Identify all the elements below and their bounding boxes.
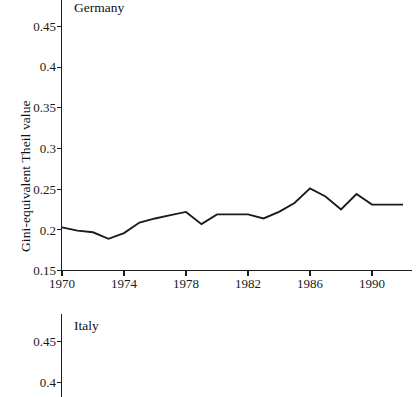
panel-italy: Italy value 0.45 0.4	[0, 300, 419, 397]
x-tick-label-1990: 1990	[349, 277, 395, 290]
y-tick-marks-germany	[57, 27, 62, 271]
panel-title-italy: Italy	[74, 319, 99, 333]
plot-area-italy	[0, 300, 419, 397]
y-tick-label-035: 0.35	[20, 101, 56, 114]
plot-area-germany	[0, 0, 419, 300]
x-tick-label-1974: 1974	[101, 277, 147, 290]
y-tick-label-italy-045: 0.45	[20, 335, 56, 348]
figure: Germany Gini-equivalent Theil value 0.45…	[0, 0, 419, 397]
y-tick-label-025: 0.25	[20, 183, 56, 196]
y-tick-label-04: 0.4	[20, 60, 56, 73]
y-tick-label-italy-04: 0.4	[20, 376, 56, 389]
panel-germany: Germany Gini-equivalent Theil value 0.45…	[0, 0, 419, 300]
panel-title-germany: Germany	[74, 1, 124, 15]
x-tick-label-1970: 1970	[39, 277, 85, 290]
series-line-germany	[62, 188, 403, 238]
y-tick-label-045: 0.45	[20, 20, 56, 33]
x-tick-label-1986: 1986	[287, 277, 333, 290]
y-tick-label-02: 0.2	[20, 224, 56, 237]
y-tick-marks-italy	[57, 342, 62, 383]
x-tick-label-1978: 1978	[163, 277, 209, 290]
y-tick-label-03: 0.3	[20, 142, 56, 155]
x-tick-marks-germany	[62, 271, 372, 276]
x-tick-label-1982: 1982	[225, 277, 271, 290]
